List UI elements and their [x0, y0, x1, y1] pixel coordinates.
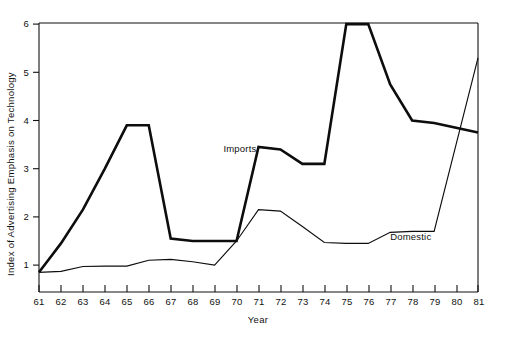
y-axis-title: Index of Advertising Emphasis on Technol…: [5, 72, 16, 276]
x-tick-label-62: 62: [56, 296, 67, 307]
x-tick-label-75: 75: [342, 296, 353, 307]
x-tick-label-73: 73: [298, 296, 309, 307]
x-tick-label-81: 81: [474, 296, 485, 307]
line-chart: 1 2 3 4 5 6 Index of Ad: [0, 0, 529, 339]
x-tick-label-70: 70: [232, 296, 243, 307]
y-tick-label-1: 1: [24, 259, 29, 270]
x-tick-label-66: 66: [144, 296, 155, 307]
y-tick-label-4: 4: [24, 115, 29, 126]
chart-figure: 1 2 3 4 5 6 Index of Ad: [0, 0, 529, 339]
y-tick-label-6: 6: [24, 18, 29, 29]
x-tick-label-65: 65: [122, 296, 133, 307]
x-tick-label-67: 67: [166, 296, 177, 307]
x-axis-title: Year: [248, 314, 268, 325]
x-tick-label-68: 68: [188, 296, 199, 307]
y-tick-label-2: 2: [24, 211, 29, 222]
x-tick-label-69: 69: [210, 296, 221, 307]
y-tick-label-3: 3: [24, 163, 29, 174]
x-tick-label-74: 74: [320, 296, 331, 307]
x-tick-label-72: 72: [276, 296, 287, 307]
x-tick-label-79: 79: [430, 296, 441, 307]
x-tick-label-76: 76: [364, 296, 375, 307]
series-annotation-imports: Imports: [223, 143, 256, 154]
x-tick-label-77: 77: [386, 296, 397, 307]
x-tick-label-61: 61: [34, 296, 45, 307]
y-tick-label-5: 5: [24, 67, 29, 78]
x-tick-label-80: 80: [452, 296, 463, 307]
x-tick-label-64: 64: [100, 296, 111, 307]
x-tick-label-78: 78: [408, 296, 419, 307]
x-tick-label-71: 71: [254, 296, 265, 307]
x-tick-label-63: 63: [78, 296, 89, 307]
series-annotation-domestic: Domestic: [390, 231, 431, 242]
